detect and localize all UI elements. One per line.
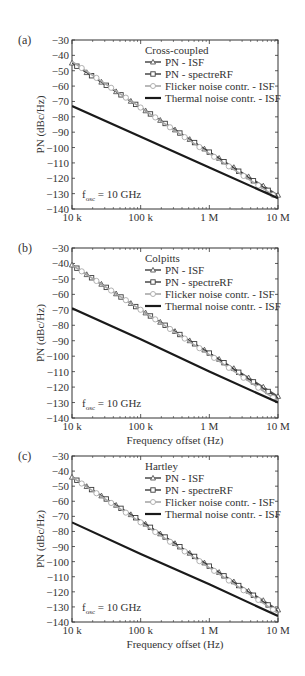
x-tick-label: 10 k [62,420,82,432]
y-tick-label: −120 [46,586,69,598]
x-tick-label: 1 M [200,624,218,636]
y-tick-label: −100 [46,142,69,154]
y-tick-label: −80 [52,525,70,537]
legend-label: PN - spectreRF [165,276,233,288]
panel-label: (a) [18,33,31,47]
y-tick-label: −100 [46,350,69,362]
y-tick-label: −120 [46,172,69,184]
x-tick-label: 10 k [62,211,82,223]
circle-marker [123,298,128,303]
circle-marker [153,317,158,322]
circle-marker [197,346,202,351]
fosc-annotation: fosc = 10 GHz [82,397,141,412]
chart-svg: (b)−30−40−50−60−70−80−90−100−110−120−130… [0,225,305,450]
chart-svg: (c)−30−40−50−60−70−80−90−100−110−120−130… [0,450,305,676]
series-line-thermal-noise-contr-isf [72,106,278,198]
y-axis-label: PN (dBc/Hz) [34,510,47,568]
y-tick-label: −40 [52,465,70,477]
y-tick-label: −90 [52,541,70,553]
x-axis-label: Frequency offset (Hz) [127,638,224,651]
circle-marker [212,154,217,159]
legend-title: Cross-coupled [145,44,209,56]
circle-marker [226,164,231,169]
circle-marker [153,529,158,534]
y-tick-label: −110 [47,571,70,583]
y-tick-label: −40 [52,49,70,61]
circle-marker [167,539,172,544]
y-tick-label: −130 [46,601,69,613]
circle-marker [226,365,231,370]
legend-circle-icon [151,292,156,297]
y-tick-label: −70 [52,304,70,316]
y-tick-label: −130 [46,397,69,409]
circle-marker [123,510,128,515]
legend-circle-icon [151,84,156,89]
circle-marker [226,578,231,583]
x-tick-label: 1 M [200,420,218,432]
circle-marker [212,568,217,573]
x-tick-label: 100 k [128,211,153,223]
y-tick-label: −90 [52,335,70,347]
y-tick-label: −60 [52,288,70,300]
y-tick-label: −90 [52,126,70,138]
circle-marker [182,549,187,554]
legend-circle-icon [151,500,156,505]
circle-marker [167,125,172,130]
circle-marker [256,597,261,602]
y-axis-label: PN (dBc/Hz) [34,304,47,362]
y-tick-label: −110 [47,366,70,378]
circle-marker [212,355,217,360]
circle-marker [182,336,187,341]
legend-label: PN - ISF [165,56,204,68]
circle-marker [138,520,143,525]
circle-marker [256,183,261,188]
y-tick-label: −30 [52,242,70,254]
circle-marker [94,75,99,80]
chart-panel-b: (b)−30−40−50−60−70−80−90−100−110−120−130… [0,225,305,450]
y-tick-label: −130 [46,188,69,200]
legend-label: PN - spectreRF [165,68,233,80]
circle-marker [182,135,187,140]
legend-triangle-icon [151,475,156,480]
legend-label: Flicker noise contr. - ISF [165,80,275,92]
y-tick-label: −70 [52,95,70,107]
legend-square-icon [151,488,155,492]
x-tick-label: 10 M [266,211,290,223]
x-tick-label: 100 k [128,420,153,432]
y-tick-label: −40 [52,257,70,269]
circle-marker [123,95,128,100]
legend-triangle-icon [151,267,156,272]
circle-marker [109,85,114,90]
fosc-sub: osc [86,195,95,203]
y-tick-label: −30 [52,34,70,46]
y-tick-label: −80 [52,111,70,123]
fosc-rest: = 10 GHz [95,397,141,409]
y-tick-label: −110 [47,157,70,169]
legend-label: Flicker noise contr. - ISF [165,496,275,508]
circle-marker [79,481,84,486]
x-axis-label: Frequency offset (Hz) [127,434,224,447]
y-tick-label: −80 [52,319,70,331]
legend-label: PN - ISF [165,264,204,276]
legend-title: Colpitts [145,252,180,264]
circle-marker [79,65,84,70]
circle-marker [197,559,202,564]
legend-label: Thermal noise contr. - ISF [165,92,281,104]
y-tick-label: −120 [46,381,69,393]
y-tick-label: −100 [46,556,69,568]
x-tick-label: 1 M [200,211,218,223]
circle-marker [138,307,143,312]
legend-triangle-icon [151,59,156,64]
circle-marker [256,385,261,390]
circle-marker [79,269,84,274]
chart-panel-a: (a)−30−40−50−60−70−80−90−100−110−120−130… [0,0,305,225]
y-tick-label: −60 [52,495,70,507]
x-tick-label: 10 M [266,624,290,636]
circle-marker [94,491,99,496]
chart-svg: (a)−30−40−50−60−70−80−90−100−110−120−130… [0,0,305,225]
legend-title: Hartley [145,460,178,472]
legend-label: PN - spectreRF [165,484,233,496]
x-tick-label: 10 k [62,624,82,636]
circle-marker [167,326,172,331]
series-line-thermal-noise-contr-isf [72,308,278,402]
